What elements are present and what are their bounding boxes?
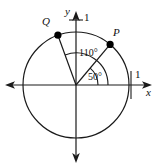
y-axis-unit-tick-label: 1 <box>84 12 90 23</box>
point-label-Q: Q <box>42 16 50 27</box>
ray-to-Q <box>58 35 76 85</box>
point-label-P: P <box>113 27 120 38</box>
angle-label-50-degrees: 50° <box>88 72 102 82</box>
y-axis-label: y <box>65 6 70 17</box>
x-axis-unit-tick-label: 1 <box>135 69 141 80</box>
point-marker-P <box>107 41 114 48</box>
angle-label-110-degrees: 110° <box>79 48 98 58</box>
unit-circle-figure: Q P y 1 x 1 110° 50° <box>0 0 160 168</box>
x-axis-label: x <box>146 87 151 98</box>
point-marker-Q <box>54 32 61 39</box>
unit-circle-diagram <box>0 0 160 168</box>
